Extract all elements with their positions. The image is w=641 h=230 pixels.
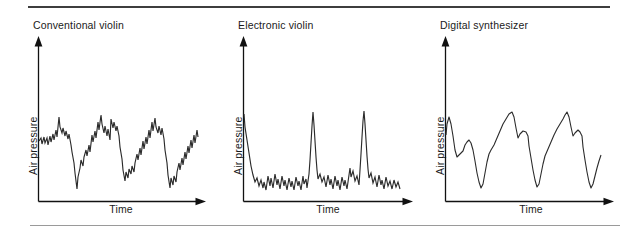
x-axis — [446, 198, 615, 205]
plot-area-digital-synthesizer — [407, 0, 641, 230]
x-axis — [244, 198, 414, 205]
panel-electronic-violin: Electronic violin Air pressure Time — [205, 0, 420, 230]
y-axis — [240, 36, 248, 202]
waveform-trace — [446, 112, 601, 188]
y-axis-arrowhead — [240, 36, 248, 47]
plot-area-electronic-violin — [205, 0, 420, 230]
panel-digital-synthesizer: Digital synthesizer Air pressure Time — [407, 0, 641, 230]
waveform-trace — [39, 115, 198, 189]
y-axis — [35, 36, 43, 202]
x-axis-arrowhead — [604, 198, 615, 205]
panel-conventional-violin: Conventional violin Air pressure Time — [0, 0, 214, 230]
y-axis-arrowhead — [442, 36, 450, 47]
waveform-trace — [244, 111, 400, 190]
y-axis-arrowhead — [35, 36, 43, 47]
x-axis — [39, 198, 207, 205]
figure-container: Conventional violin Air pressure Time El… — [0, 0, 641, 230]
plot-area-conventional-violin — [0, 0, 214, 230]
